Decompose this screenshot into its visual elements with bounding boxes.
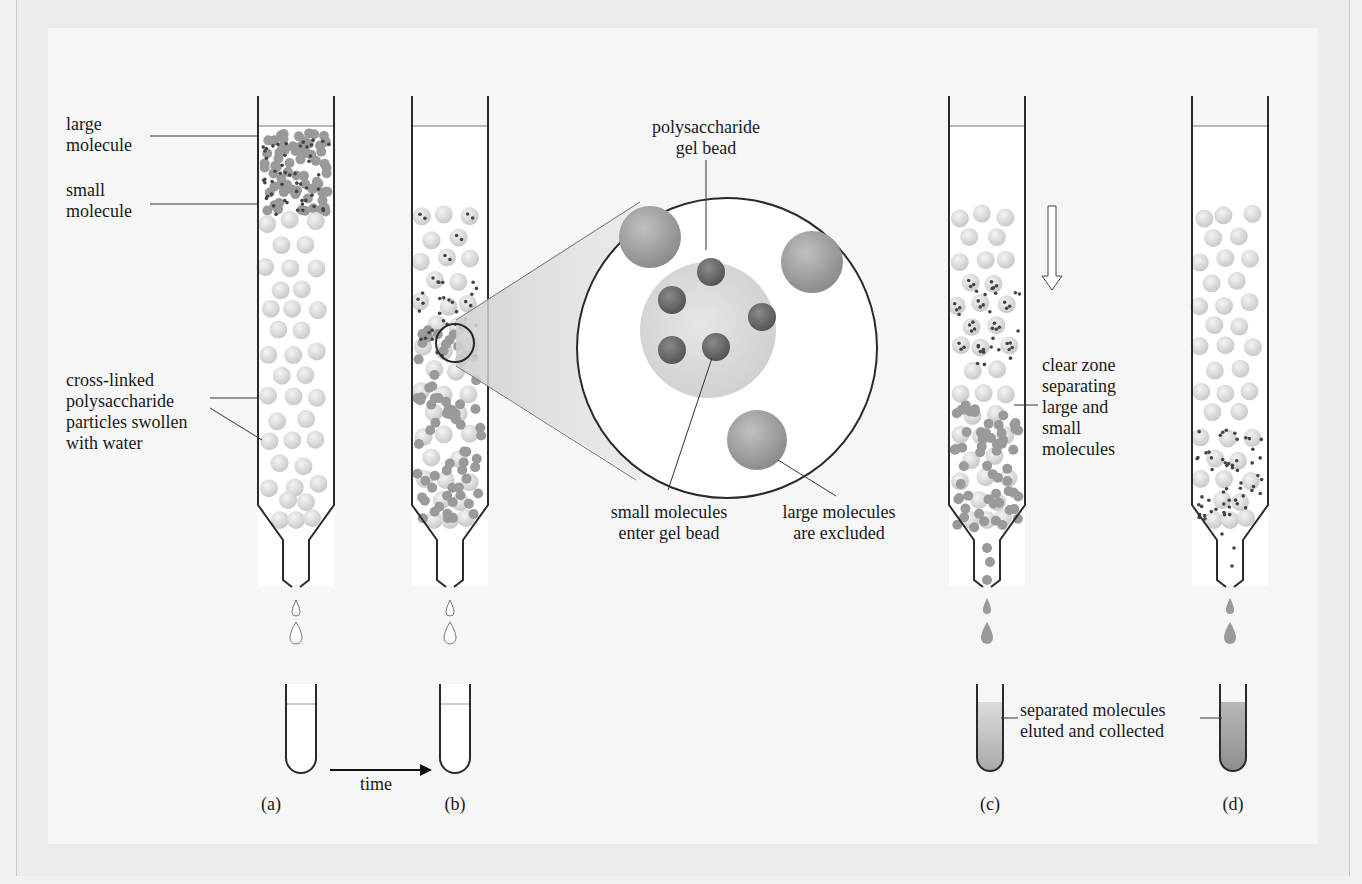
label-large-excluded: large molecules are excluded — [764, 502, 914, 544]
label-small-molecule: small molecule — [66, 180, 132, 222]
flow-arrow-icon — [1042, 206, 1062, 290]
column-b — [411, 96, 488, 773]
panel-label-d: (d) — [1213, 794, 1253, 815]
magnified-view — [577, 160, 877, 498]
label-cross-linked: cross-linked polysaccharide particles sw… — [66, 370, 187, 454]
label-small-enter: small molecules enter gel bead — [584, 502, 754, 544]
column-a — [256, 96, 334, 773]
panel-label-a: (a) — [251, 794, 291, 815]
label-clear-zone: clear zone separating large and small mo… — [1042, 355, 1116, 460]
panel-label-b: (b) — [435, 794, 475, 815]
panel-label-c: (c) — [970, 794, 1010, 815]
label-separated: separated molecules eluted and collected — [1020, 700, 1165, 742]
column-d — [1190, 96, 1268, 771]
label-gel-bead: polysaccharide gel bead — [640, 117, 772, 159]
label-time: time — [346, 774, 406, 795]
label-large-molecule: large molecule — [66, 114, 132, 156]
